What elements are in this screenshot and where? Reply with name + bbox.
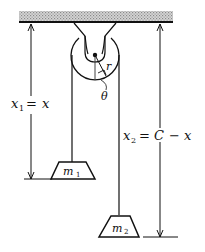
radius-line xyxy=(95,55,106,76)
svg-text:x: x xyxy=(11,96,19,111)
mass-2: m 2 xyxy=(99,216,139,237)
pulley xyxy=(71,38,119,90)
svg-text:x: x xyxy=(184,128,192,143)
right-length-label: x 2 = C − x xyxy=(123,128,192,145)
svg-text:2: 2 xyxy=(124,228,128,236)
angle-label: θ xyxy=(101,90,108,103)
mass-1: m 1 xyxy=(51,162,95,179)
svg-text:=: = xyxy=(139,128,150,143)
svg-text:1: 1 xyxy=(76,171,80,179)
svg-text:2: 2 xyxy=(131,136,136,145)
svg-text:m: m xyxy=(63,165,73,178)
svg-text:x: x xyxy=(42,96,50,111)
left-length-label: x 1 = x xyxy=(11,96,50,113)
svg-text:−: − xyxy=(169,128,180,143)
atwood-machine-diagram: r θ x 1 = x x 2 = C − x m 1 xyxy=(0,0,205,252)
svg-text:m: m xyxy=(112,222,122,235)
svg-text:1: 1 xyxy=(19,104,24,113)
radius-label: r xyxy=(106,60,112,73)
svg-text:x: x xyxy=(123,128,131,143)
svg-text:=: = xyxy=(26,96,37,111)
ceiling xyxy=(19,11,173,22)
svg-text:C: C xyxy=(154,128,164,143)
